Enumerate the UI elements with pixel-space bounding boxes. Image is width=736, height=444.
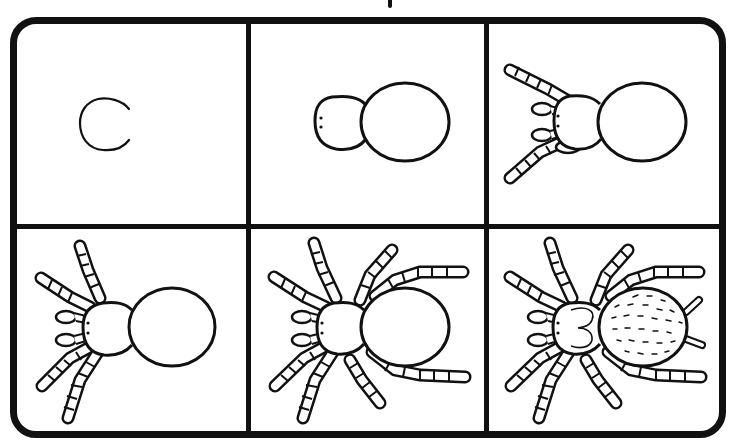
eye-icon bbox=[556, 124, 559, 127]
step-4-panel: Step 4 bbox=[17, 229, 246, 431]
spider-head bbox=[553, 303, 600, 355]
spider-abdomen bbox=[361, 83, 449, 161]
eye-icon bbox=[556, 114, 559, 117]
spider-head bbox=[83, 303, 132, 356]
step-5-panel: Step 5 bbox=[251, 229, 484, 431]
spider-head bbox=[554, 96, 601, 149]
eye-icon bbox=[86, 321, 89, 324]
eye-icon bbox=[320, 331, 323, 334]
step-2-panel: Step 2 bbox=[251, 24, 484, 224]
spider-abdomen bbox=[361, 288, 449, 366]
spider-abdomen bbox=[129, 288, 215, 366]
eye-icon bbox=[319, 116, 322, 119]
spider-abdomen bbox=[598, 83, 686, 161]
eye-icon bbox=[556, 321, 559, 324]
spider-head bbox=[317, 303, 364, 355]
spider-spinnerets bbox=[686, 300, 702, 345]
title-fragment bbox=[388, 0, 392, 8]
spider-palps bbox=[56, 311, 86, 346]
eye-icon bbox=[320, 321, 323, 324]
step-1-panel: Step 1 bbox=[17, 24, 246, 224]
step-6-panel: Step 6 bbox=[489, 229, 719, 431]
eye-icon bbox=[86, 331, 89, 334]
eye-icon bbox=[556, 331, 559, 334]
step-3-panel: Step 3 bbox=[489, 24, 719, 224]
eye-icon bbox=[319, 125, 322, 128]
spider-head bbox=[315, 97, 366, 150]
spider-head-c-shape bbox=[17, 24, 246, 224]
